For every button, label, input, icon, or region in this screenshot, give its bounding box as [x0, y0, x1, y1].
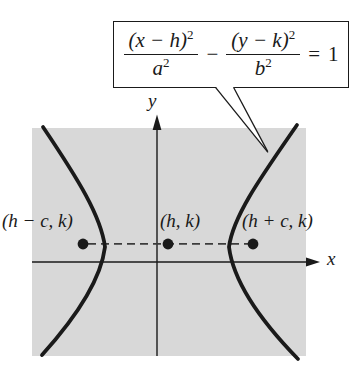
hyperbola-right-branch	[229, 125, 298, 359]
hyperbola-figure: (x − h)2 a2 − (y − k)2 b2 = 1	[0, 0, 353, 376]
x-axis-label: x	[327, 248, 335, 270]
diagram-drawing	[0, 0, 353, 376]
left-focus-label: (h − c, k)	[2, 210, 73, 232]
callout-tail-left-edge	[216, 87, 269, 152]
y-axis-label: y	[148, 90, 156, 112]
right-focus-label: (h + c, k)	[242, 210, 313, 232]
y-axis-arrow-icon	[153, 115, 162, 131]
right-focus-point	[248, 239, 259, 250]
callout-tail-right-edge	[234, 87, 268, 151]
hyperbola-left-branch	[42, 127, 105, 355]
center-point	[163, 239, 174, 250]
x-axis-arrow-icon	[306, 258, 320, 267]
center-label: (h, k)	[160, 210, 200, 232]
left-focus-point	[78, 239, 89, 250]
